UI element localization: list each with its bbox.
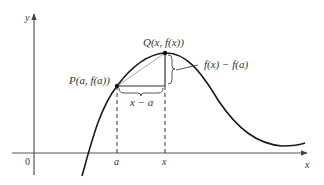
point-Q-label: Q(x, f(x)) (143, 36, 184, 49)
tick-label-a: a (114, 156, 119, 167)
point-P-label: P(a, f(a)) (68, 74, 110, 87)
point-Q (163, 51, 167, 55)
secant-diagram: y x 0 a x P(a, f(a)) Q(x, f(x)) x − a f(… (0, 0, 324, 185)
secant-line (117, 53, 165, 86)
y-axis-label: y (24, 12, 30, 23)
tick-label-x: x (161, 156, 167, 167)
brace-x-minus-a (119, 88, 163, 96)
x-axis-label: x (304, 159, 310, 170)
brace-fx-minus-fa (168, 55, 175, 84)
point-P (115, 84, 119, 88)
origin-label: 0 (25, 156, 30, 167)
label-x-minus-a: x − a (129, 96, 154, 108)
label-fx-minus-fa: f(x) − f(a) (204, 58, 248, 71)
